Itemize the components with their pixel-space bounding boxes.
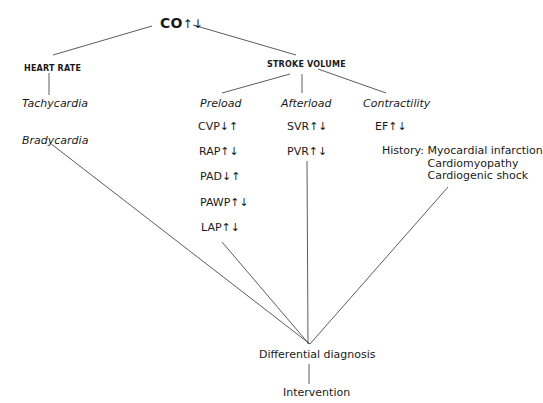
history-item-mi: Myocardial infarction <box>428 145 543 158</box>
edge-co-heart-rate <box>53 26 152 55</box>
heart-rate-title: HEART RATE <box>24 62 81 75</box>
contractility-param-ef: EF↑↓ <box>375 120 407 133</box>
edge-lap-diagnosis <box>222 242 309 344</box>
preload-param-rap: RAP↑↓ <box>199 145 239 158</box>
edge-co-stroke-volume <box>193 25 296 55</box>
history-items: Myocardial infarction Cardiomyopathy Car… <box>428 145 543 183</box>
afterload-param-pvr: PVR↑↓ <box>287 145 327 158</box>
stroke-volume-title: STROKE VOLUME <box>267 58 346 71</box>
root-label: CO <box>160 15 183 31</box>
bradycardia-label: Bradycardia <box>22 134 88 147</box>
intervention-label: Intervention <box>283 386 350 399</box>
root-arrows: ↑↓ <box>183 17 204 31</box>
history-item-cardiogenic-shock: Cardiogenic shock <box>428 170 543 183</box>
preload-param-lap: LAP↑↓ <box>201 221 240 234</box>
root-node-co: CO↑↓ <box>160 17 203 31</box>
afterload-label: Afterload <box>281 97 332 110</box>
preload-param-pad: PAD↓↑ <box>200 170 240 183</box>
contractility-label: Contractility <box>363 97 430 110</box>
preload-label: Preload <box>200 97 241 110</box>
edge-sv-contractility <box>318 69 386 93</box>
edge-history-diagnosis <box>310 187 448 344</box>
edge-pvr-diagnosis <box>307 161 308 344</box>
edge-sv-preload <box>222 74 290 93</box>
edge-bradycardia-diagnosis <box>50 143 310 344</box>
preload-param-pawp: PAWP↑↓ <box>200 196 249 209</box>
preload-param-cvp: CVP↓↑ <box>198 120 238 133</box>
tachycardia-label: Tachycardia <box>22 97 88 110</box>
history-label: History: <box>382 144 424 157</box>
differential-diagnosis-label: Differential diagnosis <box>259 348 376 361</box>
history-block: History: Myocardial infarction Cardiomyo… <box>382 145 543 183</box>
afterload-param-svr: SVR↑↓ <box>287 120 328 133</box>
